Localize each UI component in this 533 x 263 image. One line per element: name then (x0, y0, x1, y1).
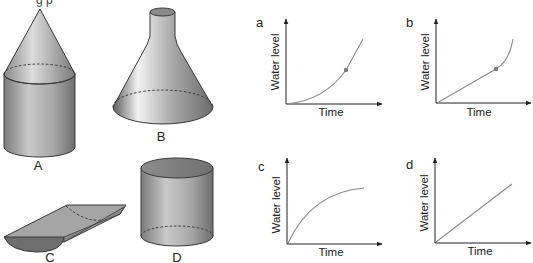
chart-label-c: c (258, 160, 265, 173)
figure: g p A B C D a Water level Time b Water l… (0, 0, 533, 263)
chart-c (287, 158, 382, 244)
chart-a-xlabel: Time (318, 107, 343, 119)
figure-canvas (0, 0, 533, 263)
shape-a (4, 9, 75, 157)
chart-c-xlabel: Time (318, 247, 343, 259)
shape-c (4, 205, 126, 252)
chart-d-xlabel: Time (467, 246, 492, 258)
chart-b (436, 19, 531, 103)
chart-d (435, 158, 531, 243)
curve (287, 39, 363, 104)
curve (436, 184, 512, 242)
shape-d (141, 158, 213, 246)
marker-dot (494, 67, 498, 71)
curve (288, 188, 364, 243)
curve (437, 39, 513, 103)
marker-dot (344, 68, 348, 72)
chart-b-ylabel: Water level (420, 33, 432, 90)
chart-d-ylabel: Water level (419, 174, 431, 231)
chart-b-xlabel: Time (466, 107, 491, 119)
chart-a (286, 19, 382, 104)
top-text-fragment: g p (36, 0, 53, 6)
chart-label-a: a (256, 16, 263, 29)
shape-label-a: A (34, 159, 43, 172)
shape-label-b: B (157, 130, 166, 143)
chart-c-ylabel: Water level (271, 176, 283, 233)
shape-label-d: D (172, 251, 181, 263)
chart-label-b: b (406, 16, 413, 29)
shape-label-c: C (45, 251, 54, 263)
chart-label-d: d (406, 158, 413, 171)
shape-b (113, 8, 213, 124)
chart-a-ylabel: Water level (270, 33, 282, 90)
